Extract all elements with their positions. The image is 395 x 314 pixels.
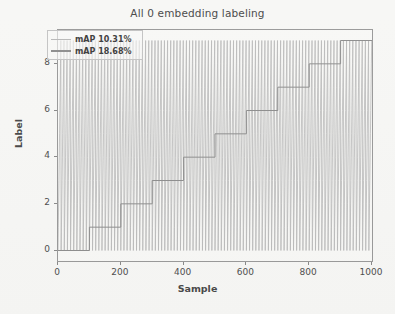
y-tick-2 <box>54 203 57 204</box>
x-ticklabel-1000: 1000 <box>351 267 391 277</box>
y-ticklabel-6: 6 <box>28 104 50 114</box>
x-tick-600 <box>245 262 246 265</box>
legend-entry-1[interactable]: mAP 10.31% <box>51 33 139 45</box>
plot-inner <box>58 30 372 261</box>
y-ticklabel-2: 2 <box>28 197 50 207</box>
y-axis-label: Label <box>13 104 24 164</box>
x-tick-1000 <box>371 262 372 265</box>
y-ticklabel-4: 4 <box>28 150 50 160</box>
chart-title: All 0 embedding labeling <box>0 7 395 19</box>
y-tick-4 <box>54 156 57 157</box>
x-ticklabel-200: 200 <box>100 267 140 277</box>
x-tick-800 <box>308 262 309 265</box>
y-ticklabel-0: 0 <box>28 244 50 254</box>
y-tick-8 <box>54 63 57 64</box>
x-axis-label: Sample <box>0 283 395 294</box>
y-tick-0 <box>54 250 57 251</box>
x-ticklabel-600: 600 <box>225 267 265 277</box>
plot-area[interactable] <box>57 29 373 262</box>
x-ticklabel-800: 800 <box>288 267 328 277</box>
y-tick-6 <box>54 110 57 111</box>
legend-swatch-series-2 <box>51 50 71 52</box>
chart-figure: All 0 embedding labeling mAP 10.31% mAP … <box>0 0 395 314</box>
x-ticklabel-400: 400 <box>163 267 203 277</box>
x-tick-400 <box>183 262 184 265</box>
chart-legend[interactable]: mAP 10.31% mAP 18.68% <box>47 30 143 60</box>
series-canvas <box>58 30 372 261</box>
legend-label-series-2: mAP 18.68% <box>75 47 132 56</box>
x-tick-200 <box>120 262 121 265</box>
x-tick-0 <box>57 262 58 265</box>
legend-entry-2[interactable]: mAP 18.68% <box>51 45 139 57</box>
x-ticklabel-0: 0 <box>37 267 77 277</box>
legend-swatch-series-1 <box>51 39 71 40</box>
legend-label-series-1: mAP 10.31% <box>75 35 132 44</box>
